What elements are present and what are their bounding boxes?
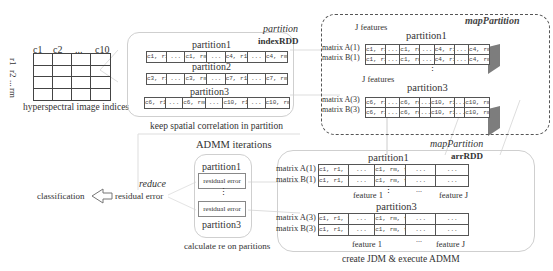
vertical-ellipsis: ⋮ — [384, 187, 393, 194]
cell: c1, r1, f1 — [319, 225, 349, 235]
residual-error-box: residual error — [198, 201, 246, 217]
partition-row: c3, r1 ... c3, rm ... c7, r1 ... c7, rm — [146, 73, 288, 85]
cell: c6, r1 — [145, 98, 166, 108]
arr-panel-caption: create JDM & execute ADMM — [342, 254, 460, 264]
j-features-label: J features — [362, 74, 394, 84]
cell: c7, rm — [266, 74, 287, 84]
cell: ... — [386, 108, 400, 117]
cell: c4, r1 — [435, 55, 455, 64]
cell: c3, rm — [185, 74, 207, 84]
cell: c1, r1 — [366, 55, 386, 64]
cell: c6, r1 — [366, 98, 386, 107]
cell: ... — [167, 74, 185, 84]
cell: ... — [386, 45, 400, 54]
cell: ... — [436, 165, 468, 175]
row-label: rm — [8, 88, 18, 98]
admm-title: ADMM iterations — [196, 139, 272, 150]
cell: c10, rm — [465, 98, 489, 107]
cell: c1, rm, f1 — [375, 214, 406, 224]
matrix-label: matrix B(3) — [276, 223, 316, 233]
partition-title: partition3 — [190, 86, 229, 97]
cell: ... — [406, 225, 437, 235]
feature-dots: ... — [416, 235, 422, 244]
cell: ... — [386, 98, 400, 107]
cell: c10, rm — [266, 98, 289, 108]
matrix-row: c1, r1, f1 ... c1, rm, f1 ... ... — [318, 224, 469, 236]
cell: ... — [166, 98, 184, 108]
matrix-label: matrix A(3) — [276, 212, 316, 222]
cell: c3, r1 — [147, 74, 167, 84]
matrix-label: matrix A(1) — [276, 163, 316, 173]
image-index-grid — [33, 53, 111, 101]
map-partition-op-label: mapPartition — [465, 15, 519, 26]
cell: ... — [406, 214, 437, 224]
partition-title: partition3 — [407, 82, 448, 93]
cell: ... — [248, 52, 266, 62]
cell: ... — [349, 176, 376, 186]
cell: ... — [455, 55, 469, 64]
feature-last-label: feature J — [436, 239, 465, 249]
matrix-row: c6, r1 ... c6, rm ... c10, r1 ... c10, r… — [365, 107, 490, 118]
cell: ... — [167, 52, 185, 62]
admm-caption: calculate re on paritions — [184, 241, 270, 251]
matrix-label: matrix A(3) — [322, 95, 360, 104]
classification-label: classification — [37, 191, 84, 201]
residual-error-result: residual error — [115, 191, 163, 201]
matrix-row: c1, r1, f1 ... c1, rm, f1 ... ... — [318, 175, 469, 187]
feature-dots: ... — [416, 185, 422, 194]
partition-op-label: partition — [263, 23, 298, 34]
matrix-label: matrix A(1) — [322, 43, 360, 52]
partition-title: partition1 — [368, 152, 409, 163]
cell: c6, rm — [183, 98, 206, 108]
feature-first-label: feature 1 — [352, 239, 382, 249]
cell: ... — [420, 98, 431, 107]
cell: c1, r1 — [147, 52, 167, 62]
map-partition-op-label: mapPartition — [430, 138, 483, 149]
matrix-label: matrix B(3) — [322, 105, 360, 114]
row-label: r1 — [8, 58, 18, 66]
cell: c10, r1 — [223, 98, 247, 108]
cell: c1, rm, f1 — [375, 165, 406, 175]
j-features-label: J features — [355, 22, 387, 32]
cell: ... — [349, 214, 376, 224]
cell: ... — [436, 176, 468, 186]
cell: ... — [207, 74, 225, 84]
feature-first-label: feature 1 — [353, 190, 383, 200]
cell: ... — [455, 98, 466, 107]
cell: ... — [206, 98, 224, 108]
cell: c1, r1, f1 — [319, 165, 349, 175]
index-rdd-name: indexRDD — [258, 36, 299, 46]
cell: c10, rm — [465, 108, 489, 117]
cell: ... — [248, 98, 266, 108]
cell: c10, r1 — [431, 108, 455, 117]
cell: ... — [455, 108, 466, 117]
cell: ... — [455, 45, 469, 54]
cell: c4, rm — [469, 45, 489, 54]
cell: ... — [349, 165, 376, 175]
cell: ... — [386, 55, 400, 64]
cell: c4, r1 — [435, 45, 455, 54]
cell: ... — [420, 108, 431, 117]
partition-title: partition3 — [202, 219, 241, 230]
cell: c1, r1, f1 — [319, 214, 349, 224]
index-panel-caption: keep spatial correlation in partition — [150, 121, 283, 131]
cell: c6, rm — [400, 98, 420, 107]
cell: ... — [420, 45, 434, 54]
cell: c4, rm — [469, 55, 489, 64]
arr-rdd-name: arrRDD — [451, 151, 483, 161]
cell: ... — [349, 225, 376, 235]
matrix-label: matrix B(1) — [276, 174, 316, 184]
reduce-op-label: reduce — [139, 178, 166, 189]
cell: c10, r1 — [431, 98, 455, 107]
row-label: ... — [8, 80, 18, 87]
cell: ... — [436, 225, 468, 235]
cell: c6, r1 — [366, 108, 386, 117]
partition-title: partition1 — [406, 30, 447, 41]
grid-caption: hyperspectral image indices — [23, 102, 129, 112]
partition-title: partition3 — [376, 201, 417, 212]
cell: c1, r1, f1 — [319, 176, 349, 186]
cell: c4, rm — [266, 52, 287, 62]
feature-last-label: feature J — [439, 190, 468, 200]
cell: ... — [436, 214, 468, 224]
cell: c1, r1 — [366, 45, 386, 54]
